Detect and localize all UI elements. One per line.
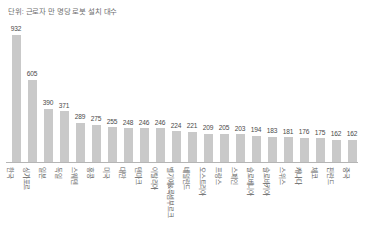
bar [12,35,21,162]
category-label: 프랑스 [214,167,221,184]
bar-value-label: 255 [107,119,117,126]
category-label: 체코 [310,167,317,179]
bar-slot: 181 [280,24,296,162]
bar-slot: 275 [88,24,104,162]
bar-value-label: 390 [43,100,53,107]
bar-slot: 183 [264,24,280,162]
bar-slot: 246 [136,24,152,162]
category-label: 독일 [54,167,61,179]
category-label: 슬로바키아 [262,167,269,196]
bar-slot: 371 [56,24,72,162]
category-label: 홍콩 [86,167,93,179]
bar-value-label: 162 [331,131,341,138]
bar [76,123,85,162]
bar [92,125,101,162]
bar [188,132,197,162]
bar-slot: 390 [40,24,56,162]
category-label: 슬로베니아 [246,167,253,196]
bar-slot: 248 [120,24,136,162]
bar-value-label: 371 [59,103,69,110]
bar-slot: 221 [184,24,200,162]
x-axis-line [6,162,358,163]
bar [236,134,245,162]
bar-value-label: 209 [203,125,213,132]
bar-value-label: 205 [219,125,229,132]
bar [348,140,357,162]
bar-slot: 932 [8,24,24,162]
bar [252,136,261,162]
bar-value-label: 605 [27,71,37,78]
bar-slot: 162 [328,24,344,162]
bar-value-label: 203 [235,126,245,133]
bar-slot: 162 [344,24,360,162]
bar-value-label: 176 [299,129,309,136]
bar-value-label: 224 [171,123,181,130]
category-label: 네덜란드 [182,167,189,190]
bar-slot: 175 [312,24,328,162]
bar [332,140,341,162]
category-label: 대만 [118,167,125,179]
bar-value-label: 289 [75,114,85,121]
category-label: 한국 [6,167,13,179]
bar [28,80,37,162]
bar-value-label: 275 [91,116,101,123]
bar [44,109,53,162]
bar [284,137,293,162]
bar-slot: 176 [296,24,312,162]
bar [268,137,277,162]
category-label: 미국 [102,167,109,179]
category-label-slot: 중국 [344,165,360,249]
bar [124,128,133,162]
bar-value-label: 932 [11,26,21,33]
bar-value-label: 183 [267,128,277,135]
category-label: 캐나다 [294,167,301,184]
category-label: 오스트리아 [198,167,205,196]
category-label: 일본 [38,167,45,179]
bar-slot: 246 [152,24,168,162]
bar-value-label: 246 [139,120,149,127]
category-label: 덴마크 [134,167,141,184]
bar-value-label: 175 [315,130,325,137]
bar-slot: 205 [216,24,232,162]
bar [316,138,325,162]
bar [220,134,229,162]
bar-slot: 605 [24,24,40,162]
category-label: 핀란드 [326,167,333,184]
bar [60,111,69,162]
bar [204,134,213,162]
bar [300,138,309,162]
plot-area: 9326053903712892752552482462462242212092… [8,24,360,162]
category-label: 벨기에&룩셈부르크 [166,167,173,218]
bar-slot: 203 [232,24,248,162]
bar [108,127,117,162]
bar-value-label: 246 [155,120,165,127]
category-label: 싱가포르 [22,167,29,190]
category-labels-container: 한국싱가포르일본독일스웨덴홍콩미국대만덴마크이탈리아벨기에&룩셈부르크네덜란드오… [8,165,360,249]
category-label: 중국 [342,167,349,179]
bar [140,128,149,162]
bar [156,128,165,162]
bar-value-label: 162 [347,131,357,138]
bar [172,131,181,162]
bar-slot: 289 [72,24,88,162]
category-label: 스위스 [278,167,285,184]
category-label: 스페인 [230,167,237,184]
bar-slot: 194 [248,24,264,162]
chart-title: 단위: 근로자 만 명당 로봇 설치 대수 [8,8,117,15]
bar-value-label: 194 [251,127,261,134]
category-label: 스웨덴 [70,167,77,184]
bar-value-label: 248 [123,120,133,127]
bar-value-label: 221 [187,123,197,130]
bar-slot: 224 [168,24,184,162]
bar-slot: 209 [200,24,216,162]
bar-slot: 255 [104,24,120,162]
bars-container: 9326053903712892752552482462462242212092… [8,24,360,162]
robot-density-bar-chart: 단위: 근로자 만 명당 로봇 설치 대수 932605390371289275… [0,0,368,252]
category-label: 이탈리아 [150,167,157,190]
bar-value-label: 181 [283,129,293,136]
